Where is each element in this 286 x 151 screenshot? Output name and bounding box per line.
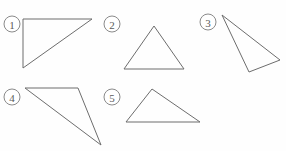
figure-triangle-4: 4 xyxy=(4,88,101,145)
figure-label-1: 1 xyxy=(4,16,20,32)
label-3-text: 3 xyxy=(205,17,211,29)
figure-label-4: 4 xyxy=(4,89,20,105)
label-4-text: 4 xyxy=(9,92,15,104)
figure-label-3: 3 xyxy=(200,14,216,30)
figure-label-5: 5 xyxy=(104,89,120,105)
label-2-text: 2 xyxy=(109,19,115,31)
triangle-2-shape xyxy=(124,26,184,69)
figure-triangle-3: 3 xyxy=(200,14,280,72)
figure-triangle-5: 5 xyxy=(104,89,200,122)
label-5-text: 5 xyxy=(109,92,115,104)
label-1-text: 1 xyxy=(9,19,15,31)
figure-label-2: 2 xyxy=(104,16,120,32)
triangle-1-shape xyxy=(23,19,92,68)
figure-triangle-2: 2 xyxy=(104,16,184,69)
triangle-5-shape xyxy=(126,89,200,122)
figure-canvas: 1 2 3 4 5 xyxy=(0,0,286,151)
triangle-3-shape xyxy=(222,15,280,72)
triangle-4-shape xyxy=(25,88,101,145)
figure-triangle-1: 1 xyxy=(4,16,92,68)
